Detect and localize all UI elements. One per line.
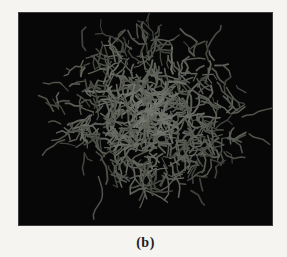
- scanned-paper-page: (b): [0, 0, 287, 257]
- figure-caption: (b): [136, 235, 155, 250]
- molecule-figure-panel: [18, 12, 273, 226]
- molecule-render: [19, 13, 272, 225]
- figure-caption-row: (b): [18, 233, 273, 251]
